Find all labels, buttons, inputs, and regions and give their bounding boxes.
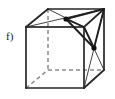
right-face-center-dot bbox=[91, 45, 96, 50]
bold-right-center-to-ftr bbox=[84, 27, 94, 48]
cube-diagram bbox=[0, 0, 115, 99]
top-face-center-dot bbox=[63, 16, 68, 21]
bold-center-to-center bbox=[66, 19, 94, 48]
bold-right-center-to-btr bbox=[94, 9, 104, 48]
hidden-edge-bottom-left-depth bbox=[26, 70, 48, 88]
edge-bottom-right-depth bbox=[84, 70, 104, 88]
figure-container: f) bbox=[0, 0, 115, 99]
